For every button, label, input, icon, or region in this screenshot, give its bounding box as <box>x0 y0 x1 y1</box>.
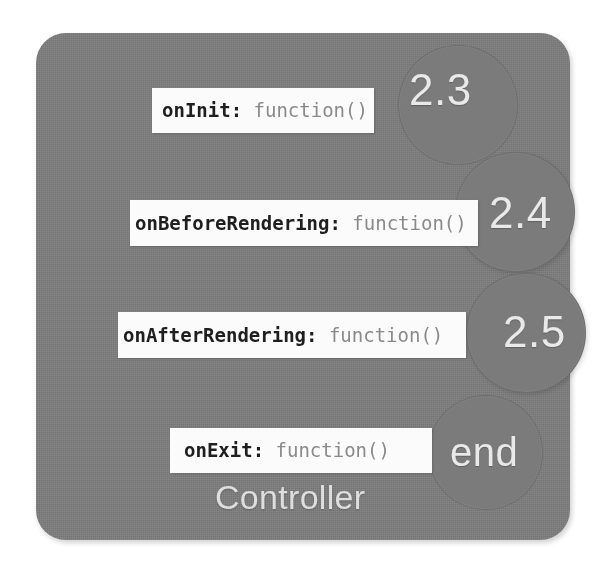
lifecycle-box-on-init[interactable]: onInit: function() <box>152 88 374 133</box>
step-label-2-5: 2.5 <box>503 307 566 357</box>
hook-name-on-exit: onExit: <box>184 441 264 460</box>
hook-name-on-init: onInit: <box>162 101 242 120</box>
lifecycle-box-on-exit[interactable]: onExit: function() <box>170 428 432 473</box>
hook-name-on-before-rendering: onBeforeRendering: <box>135 214 341 233</box>
lifecycle-box-on-after-rendering[interactable]: onAfterRendering: function() <box>118 312 466 358</box>
diagram-canvas: onInit: function() onBeforeRendering: fu… <box>0 0 612 568</box>
step-label-2-3: 2.3 <box>409 65 472 115</box>
lifecycle-box-on-before-rendering[interactable]: onBeforeRendering: function() <box>130 200 478 246</box>
step-label-2-4: 2.4 <box>489 188 552 238</box>
step-label-end: end <box>450 430 518 475</box>
hook-function-on-init: function() <box>242 101 368 120</box>
hook-function-on-before-rendering: function() <box>341 214 467 233</box>
hook-function-on-after-rendering: function() <box>317 326 443 345</box>
panel-caption-controller: Controller <box>215 478 365 517</box>
hook-name-on-after-rendering: onAfterRendering: <box>123 326 317 345</box>
hook-function-on-exit: function() <box>264 441 390 460</box>
